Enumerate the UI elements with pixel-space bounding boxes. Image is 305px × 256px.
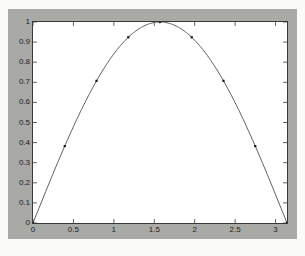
- data-point-marker: [95, 80, 97, 82]
- y-tick-label: 0.4: [19, 139, 30, 147]
- y-tick-label: 1: [26, 18, 30, 26]
- data-point-marker: [191, 36, 193, 38]
- sine-curve-line: [33, 22, 287, 223]
- y-tick-label: 0.3: [19, 159, 30, 167]
- x-tick-label: 2: [192, 226, 196, 234]
- y-tick-label: 0.9: [19, 38, 30, 46]
- x-tick-label: 1.5: [149, 226, 160, 234]
- x-tick-label: 3: [273, 226, 277, 234]
- y-tick-label: 0.8: [19, 58, 30, 66]
- data-point-marker: [159, 22, 161, 23]
- data-point-marker: [254, 145, 256, 147]
- y-tick-label: 0: [26, 219, 30, 227]
- x-tick-label: 0: [31, 226, 35, 234]
- x-tick-label: 1: [112, 226, 116, 234]
- plot-axes: 00.10.20.30.40.50.60.70.80.9100.511.522.…: [32, 21, 288, 224]
- x-tick-label: 0.5: [68, 226, 79, 234]
- data-point-marker: [33, 222, 34, 223]
- y-tick-label: 0.7: [19, 78, 30, 86]
- data-point-marker: [222, 80, 224, 82]
- y-tick-label: 0.5: [19, 119, 30, 127]
- matlab-figure-canvas: 00.10.20.30.40.50.60.70.80.9100.511.522.…: [8, 9, 297, 239]
- data-point-marker: [286, 222, 287, 223]
- data-point-marker: [127, 36, 129, 38]
- data-point-marker: [64, 145, 66, 147]
- sine-curve-plot: [33, 22, 287, 223]
- y-tick-label: 0.2: [19, 179, 30, 187]
- y-tick-label: 0.1: [19, 199, 30, 207]
- x-tick-label: 2.5: [230, 226, 241, 234]
- y-tick-label: 0.6: [19, 98, 30, 106]
